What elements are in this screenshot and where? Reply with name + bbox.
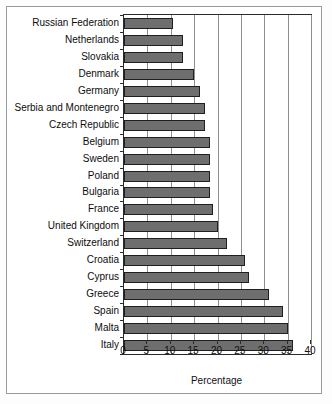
category-tick <box>120 151 124 152</box>
x-axis-title: Percentage <box>123 375 310 386</box>
category-label: Serbia and Montenegro <box>0 102 119 113</box>
x-tick-mark <box>146 340 147 344</box>
x-tick-mark <box>240 340 241 344</box>
gridline-15 <box>194 15 195 354</box>
category-label: France <box>0 203 119 214</box>
bar <box>124 120 205 131</box>
bar <box>124 86 200 97</box>
category-tick <box>120 66 124 67</box>
category-label: Malta <box>0 322 119 333</box>
chart-figure: 0510152025303540 Russian FederationNethe… <box>0 0 332 404</box>
bar <box>124 171 210 182</box>
x-tick-mark <box>310 340 311 344</box>
category-tick <box>120 168 124 169</box>
category-label: Russian Federation <box>0 17 119 28</box>
x-tick-mark <box>193 340 194 344</box>
category-tick <box>120 201 124 202</box>
bar <box>124 272 249 283</box>
category-label: Netherlands <box>0 34 119 45</box>
category-label: Greece <box>0 288 119 299</box>
category-label: United Kingdom <box>0 220 119 231</box>
x-tick-mark <box>287 340 288 344</box>
category-label: Denmark <box>0 68 119 79</box>
category-tick <box>120 134 124 135</box>
category-tick <box>120 100 124 101</box>
gridline-10 <box>171 15 172 354</box>
x-tick-mark <box>217 340 218 344</box>
bar <box>124 187 210 198</box>
category-label: Cyprus <box>0 271 119 282</box>
category-tick <box>120 49 124 50</box>
category-tick <box>120 286 124 287</box>
category-tick <box>120 117 124 118</box>
bar <box>124 221 218 232</box>
bar <box>124 69 194 80</box>
category-label: Sweden <box>0 153 119 164</box>
category-label: Germany <box>0 85 119 96</box>
gridline-20 <box>218 15 219 354</box>
plot-wrapper: 0510152025303540 Russian FederationNethe… <box>0 0 332 404</box>
bar <box>124 323 288 334</box>
gridline-40 <box>311 15 312 354</box>
category-tick <box>120 269 124 270</box>
bar <box>124 204 213 215</box>
gridline-35 <box>288 15 289 354</box>
bar <box>124 18 173 29</box>
category-tick <box>120 218 124 219</box>
category-label: Belgium <box>0 136 119 147</box>
category-tick <box>120 83 124 84</box>
x-tick-mark <box>170 340 171 344</box>
bar <box>124 306 283 317</box>
category-label: Slovakia <box>0 51 119 62</box>
bar <box>124 154 210 165</box>
bar <box>124 137 210 148</box>
gridline-30 <box>264 15 265 354</box>
category-tick <box>120 303 124 304</box>
gridline-5 <box>147 15 148 354</box>
bar <box>124 103 205 114</box>
plot-area <box>123 14 312 355</box>
x-tick-mark <box>123 340 124 344</box>
category-label: Italy <box>0 339 119 350</box>
bar <box>124 52 183 63</box>
category-tick <box>120 337 124 338</box>
category-label: Czech Republic <box>0 119 119 130</box>
category-tick <box>120 320 124 321</box>
category-label: Spain <box>0 305 119 316</box>
x-tick-label: 40 <box>295 345 325 357</box>
category-label: Poland <box>0 170 119 181</box>
x-tick-mark <box>263 340 264 344</box>
bar <box>124 289 269 300</box>
category-tick <box>120 32 124 33</box>
category-tick <box>120 185 124 186</box>
bar <box>124 255 245 266</box>
category-label: Croatia <box>0 254 119 265</box>
category-tick <box>120 235 124 236</box>
bar <box>124 238 227 249</box>
category-label: Switzerland <box>0 237 119 248</box>
category-tick <box>120 15 124 16</box>
bar <box>124 35 183 46</box>
gridline-25 <box>241 15 242 354</box>
category-tick <box>120 252 124 253</box>
category-label: Bulgaria <box>0 186 119 197</box>
